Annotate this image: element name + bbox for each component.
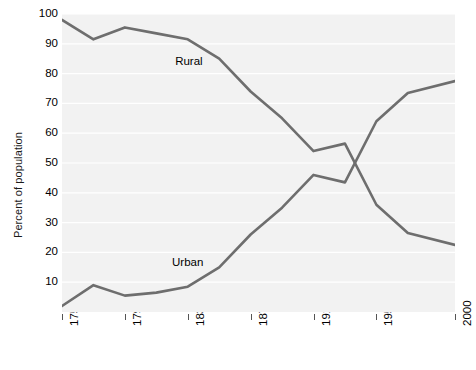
chart-figure: Percent of population 102030405060708090… xyxy=(0,0,476,370)
x-tick-mark-1750 xyxy=(62,314,63,320)
plot-svg xyxy=(62,14,455,312)
series-line-urban xyxy=(62,81,455,306)
x-tick-mark-1830 xyxy=(188,314,189,320)
x-tick-mark-1870 xyxy=(251,314,252,320)
x-tick-mark-2000 xyxy=(455,314,456,320)
series-label-rural: Rural xyxy=(175,55,202,67)
series-label-urban: Urban xyxy=(172,256,203,268)
x-tick-mark-1950 xyxy=(376,314,377,320)
plot-area xyxy=(62,14,455,312)
figure-caption xyxy=(50,361,450,370)
series-line-rural xyxy=(62,20,455,245)
x-tick-mark-1910 xyxy=(314,314,315,320)
x-tick-mark-1790 xyxy=(125,314,126,320)
x-tick-label-2000: 2000 xyxy=(461,300,473,326)
